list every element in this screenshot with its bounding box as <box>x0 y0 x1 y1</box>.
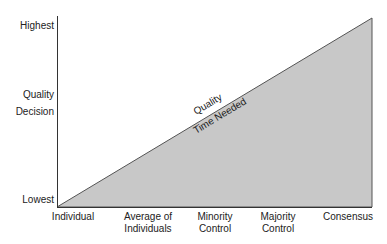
x-label-line2: Individuals <box>113 223 183 235</box>
x-tick-individual: Individual <box>38 211 108 223</box>
x-label-line1: Consensus <box>313 211 383 223</box>
x-label-line1: Majority <box>243 211 313 223</box>
y-axis-label-line2: Decision <box>16 106 54 118</box>
x-label-line2: Control <box>243 223 313 235</box>
x-tick-consensus: Consensus <box>313 211 383 223</box>
x-tick-majority-control: Majority Control <box>243 211 313 235</box>
x-tick-average-of-individuals: Average of Individuals <box>113 211 183 235</box>
x-label-line1: Individual <box>38 211 108 223</box>
x-label-line2: Control <box>180 223 250 235</box>
y-tick-lowest: Lowest <box>22 194 54 206</box>
chart-area: Quality Time Needed <box>0 0 387 244</box>
y-axis-label-line1: Quality <box>23 89 54 101</box>
x-label-line1: Average of <box>113 211 183 223</box>
x-tick-minority-control: Minority Control <box>180 211 250 235</box>
x-label-line1: Minority <box>180 211 250 223</box>
y-tick-highest: Highest <box>20 20 54 32</box>
